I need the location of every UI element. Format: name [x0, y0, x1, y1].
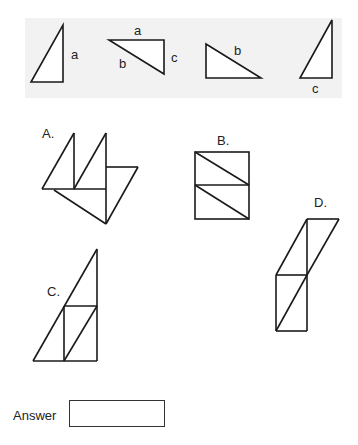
triangle-2-side-label: c	[171, 51, 178, 64]
option-a-figure[interactable]	[42, 133, 138, 224]
option-b-edge	[195, 185, 249, 219]
option-a-edge	[74, 133, 106, 189]
reference-triangle-1	[31, 25, 63, 82]
triangle-4-side-label: c	[312, 82, 319, 95]
option-a-edge	[54, 190, 106, 224]
option-d-label: D.	[314, 196, 327, 209]
triangle-2-side-label: a	[134, 24, 141, 37]
option-c-figure[interactable]	[33, 249, 97, 361]
reference-triangle-2	[109, 40, 164, 74]
figure-canvas	[0, 0, 358, 445]
option-d-edge	[307, 219, 339, 275]
option-b-figure[interactable]	[195, 152, 249, 219]
option-a-label: A.	[42, 127, 54, 140]
option-b-edge	[195, 152, 249, 185]
option-d-edge	[276, 219, 307, 275]
option-d-edge	[276, 275, 307, 331]
triangle-2-side-label: b	[119, 57, 126, 70]
option-c-edge	[64, 306, 97, 361]
reference-triangle-4	[300, 20, 332, 78]
triangle-3-side-label: b	[234, 44, 241, 57]
triangle-1-side-label: a	[71, 48, 78, 61]
option-a-edge	[42, 133, 74, 189]
option-a-edge	[106, 167, 138, 224]
option-c-label: C.	[47, 285, 60, 298]
answer-input[interactable]	[69, 400, 165, 427]
option-b-label: B.	[217, 134, 229, 147]
answer-label: Answer	[13, 408, 56, 423]
option-d-figure[interactable]	[276, 219, 339, 331]
option-c-edge	[33, 249, 97, 361]
